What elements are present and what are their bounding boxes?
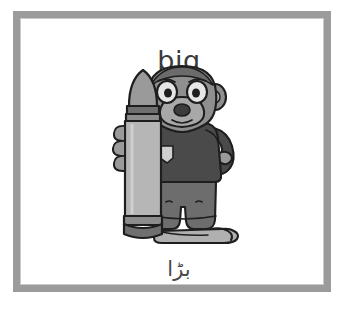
monkey-feet xyxy=(154,228,238,243)
flashcard: big xyxy=(0,0,348,309)
illustration-monkey-holding-giant-crayon xyxy=(102,64,262,246)
monkey-hand-gripping-crayon xyxy=(113,126,125,171)
word-urdu: بڑا xyxy=(20,256,338,283)
picture-frame: big xyxy=(13,11,331,292)
giant-crayon xyxy=(124,70,162,238)
